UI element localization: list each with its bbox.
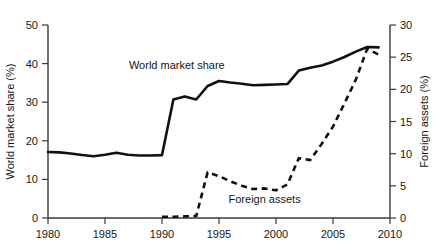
x-tick-label: 1995: [207, 228, 231, 240]
left-axis: 01020304050 World market share (%): [4, 19, 48, 224]
x-tick-label: 1980: [36, 228, 60, 240]
left-tick-label: 20: [26, 135, 38, 147]
right-tick-label: 5: [400, 180, 406, 192]
right-tick-label: 0: [400, 212, 406, 224]
right-axis-ticks: [390, 25, 396, 218]
left-tick-label: 10: [26, 173, 38, 185]
right-tick-label: 10: [400, 148, 412, 160]
right-axis-ticklabels: 051015202530: [400, 19, 412, 224]
left-tick-label: 30: [26, 96, 38, 108]
x-tick-label: 1990: [150, 228, 174, 240]
x-axis: 1980198519901995200020052010: [36, 218, 402, 240]
series-foreign-assets-line: [162, 49, 379, 217]
right-tick-label: 25: [400, 51, 412, 63]
series-world-market-share-label: World market share: [129, 59, 225, 71]
left-axis-title: World market share (%): [4, 64, 16, 180]
x-tick-label: 2010: [378, 228, 402, 240]
right-axis: 051015202530 Foreign assets (%): [390, 19, 430, 224]
left-axis-ticklabels: 01020304050: [26, 19, 38, 224]
series-foreign-assets-label: Foreign assets: [229, 193, 302, 205]
right-tick-label: 30: [400, 19, 412, 31]
chart-figure: 01020304050 World market share (%) 05101…: [0, 0, 440, 251]
right-axis-title: Foreign assets (%): [418, 75, 430, 167]
x-axis-ticks: [48, 218, 390, 224]
left-tick-label: 0: [32, 212, 38, 224]
x-tick-label: 2005: [321, 228, 345, 240]
left-axis-ticks: [42, 25, 48, 218]
left-tick-label: 50: [26, 19, 38, 31]
right-tick-label: 15: [400, 116, 412, 128]
right-tick-label: 20: [400, 83, 412, 95]
left-tick-label: 40: [26, 58, 38, 70]
x-tick-label: 1985: [93, 228, 117, 240]
x-tick-label: 2000: [264, 228, 288, 240]
chart-canvas: 01020304050 World market share (%) 05101…: [0, 0, 440, 251]
x-axis-ticklabels: 1980198519901995200020052010: [36, 228, 402, 240]
